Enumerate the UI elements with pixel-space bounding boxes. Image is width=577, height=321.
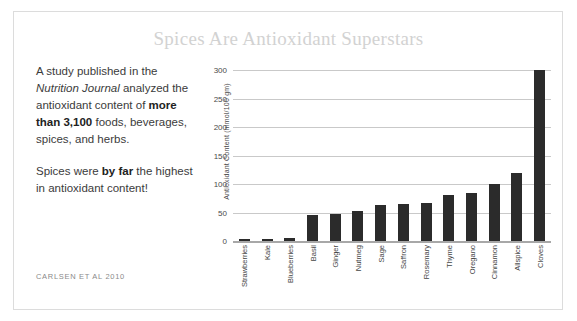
x-axis-label-thyme: Thyme <box>444 245 453 268</box>
bars-group: StrawberriesKaleBlueberriesBasilGingerNu… <box>233 70 551 241</box>
source-citation: CARLSEN ET AL 2010 <box>36 272 125 281</box>
bar-cinnamon <box>489 184 500 241</box>
p2-emphasis: by far <box>102 165 133 177</box>
bar-slot: Blueberries <box>278 70 301 241</box>
x-axis-label-sage: Sage <box>376 245 385 263</box>
bar-slot: Kale <box>256 70 279 241</box>
bar-slot: Rosemary <box>415 70 438 241</box>
x-axis-label-cloves: Cloves <box>535 245 544 268</box>
bar-kale <box>262 239 273 241</box>
bar-oregano <box>466 193 477 241</box>
bar-rosemary <box>421 203 432 241</box>
bar-allspice <box>511 173 522 241</box>
bar-slot: Thyme <box>437 70 460 241</box>
infographic-card: Spices Are Antioxidant Superstars A stud… <box>0 0 577 321</box>
bar-slot: Sage <box>369 70 392 241</box>
y-axis-tick-label: 50 <box>218 208 227 217</box>
bar-slot: Oregano <box>460 70 483 241</box>
x-axis-label-kale: Kale <box>263 245 272 260</box>
y-axis-tick-label: 200 <box>214 123 227 132</box>
bar-ginger <box>330 214 341 241</box>
page-title: Spices Are Antioxidant Superstars <box>0 28 577 50</box>
bar-basil <box>307 215 318 241</box>
bar-slot: Strawberries <box>233 70 256 241</box>
p1-text-a: A study published in the <box>36 65 157 77</box>
bar-slot: Cinnamon <box>483 70 506 241</box>
paragraph-conclusion: Spices were by far the highest in antiox… <box>36 163 196 197</box>
bar-slot: Basil <box>301 70 324 241</box>
bar-slot: Cloves <box>528 70 551 241</box>
x-axis-label-strawberries: Strawberries <box>240 245 249 287</box>
bar-saffron <box>398 204 409 241</box>
y-axis-tick-label: 250 <box>214 94 227 103</box>
paragraph-study: A study published in the Nutrition Journ… <box>36 63 196 148</box>
bar-cloves <box>534 70 545 241</box>
x-axis-label-saffron: Saffron <box>399 245 408 269</box>
bar-blueberries <box>284 238 295 241</box>
bar-sage <box>375 205 386 241</box>
plot-area: 050100150200250300 StrawberriesKaleBlueb… <box>233 70 551 241</box>
y-axis-tick-label: 0 <box>223 237 227 246</box>
p2-text-a: Spices were <box>36 165 102 177</box>
x-axis-label-nutmeg: Nutmeg <box>353 245 362 271</box>
x-axis-label-basil: Basil <box>308 245 317 261</box>
x-axis-label-allspice: Allspice <box>512 245 521 271</box>
bar-slot: Ginger <box>324 70 347 241</box>
bar-strawberries <box>239 239 250 241</box>
x-axis-label-rosemary: Rosemary <box>422 245 431 279</box>
y-axis-tick-label: 300 <box>214 66 227 75</box>
y-axis-tick-label: 150 <box>214 151 227 160</box>
x-axis-label-oregano: Oregano <box>467 245 476 274</box>
x-axis-label-blueberries: Blueberries <box>285 245 294 283</box>
bar-slot: Nutmeg <box>347 70 370 241</box>
narrative-text-block: A study published in the Nutrition Journ… <box>36 63 196 212</box>
bar-thyme <box>443 195 454 241</box>
x-axis-label-ginger: Ginger <box>331 245 340 268</box>
axis-baseline: 0 <box>233 241 551 243</box>
bar-nutmeg <box>352 211 363 241</box>
x-axis-label-cinnamon: Cinnamon <box>490 245 499 279</box>
bar-slot: Allspice <box>506 70 529 241</box>
y-axis-title: Antioxidant Content (mmol/100 gm) <box>223 62 230 222</box>
bar-slot: Saffron <box>392 70 415 241</box>
bar-chart: Antioxidant Content (mmol/100 gm) 050100… <box>196 60 561 310</box>
y-axis-tick-label: 100 <box>214 180 227 189</box>
journal-name: Nutrition Journal <box>36 82 120 94</box>
